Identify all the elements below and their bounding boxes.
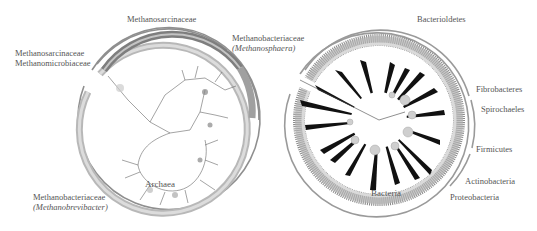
bacteria-center-label: Bacteria — [371, 188, 401, 198]
label-line: Methanobacteriaceae — [232, 33, 304, 43]
label-line: Methanomicrobiaceae — [15, 58, 91, 68]
label-methanosarcinaceae-top: Methanosarcinaceae — [127, 14, 196, 24]
label-line-italic: (Methanobrevibacter) — [33, 202, 108, 212]
label-methanosarcinaceae-methanomicrobiaceae: Methanosarcinaceae Methanomicrobiaceae — [15, 48, 91, 68]
label-spirochaetes: Spirochaeles — [481, 104, 524, 114]
label-line: Methanobacteriaceae — [33, 192, 108, 202]
label-fibrobacteres: Fibrobacteres — [476, 84, 522, 94]
label-methanobacteriaceae-methanobrevibacter: Methanobacteriaceae (Methanobrevibacter) — [33, 192, 108, 212]
label-bacteroidetes: Bacterioldetes — [417, 14, 466, 24]
label-line: Methanosarcinaceae — [15, 48, 91, 58]
label-proteobacteria: Proteobacteria — [450, 192, 499, 202]
archaea-center-label: Archaea — [145, 179, 175, 189]
label-line-italic: (Methanosphaera) — [232, 43, 295, 53]
label-actinobacteria: Actinobacteria — [465, 176, 515, 186]
label-methanobacteriaceae-methanosphaera: Methanobacteriaceae (Methanosphaera) — [232, 33, 304, 53]
label-line: Methanosarcinaceae — [127, 14, 196, 24]
label-firmicutes: Firmicutes — [476, 144, 512, 154]
